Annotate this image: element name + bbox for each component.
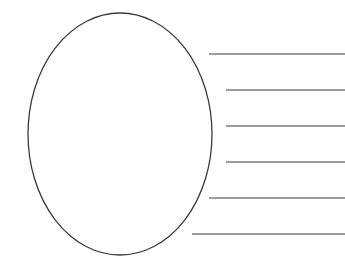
writing-lines (192, 54, 345, 234)
organizer-canvas (0, 0, 345, 265)
topic-oval (28, 13, 212, 255)
